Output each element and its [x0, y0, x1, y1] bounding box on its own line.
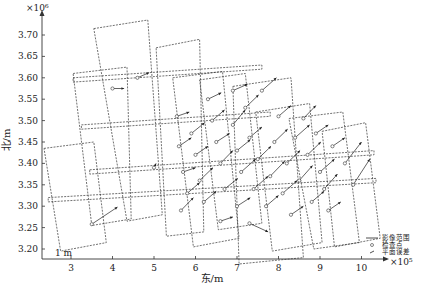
error-arrow-icon [325, 125, 328, 128]
x-tick-label: 8 [276, 263, 282, 273]
check-point [190, 132, 193, 135]
x-tick-label: 10 [356, 263, 368, 273]
y-tick-label: 3.45 [18, 137, 38, 147]
error-vector [353, 159, 370, 185]
error-vector [254, 176, 269, 189]
check-point [194, 153, 197, 156]
check-point [231, 123, 234, 126]
check-point [235, 149, 238, 152]
check-point [318, 170, 321, 173]
y-axis: ×10⁶ 3.203.253.303.353.403.453.503.553.6… [1, 3, 49, 259]
error-vector [345, 142, 362, 163]
x-tick-label: 9 [317, 263, 323, 273]
error-arrow-icon [338, 202, 341, 205]
image-footprints [44, 20, 380, 264]
check-point [306, 153, 309, 156]
image-footprint [322, 123, 380, 247]
check-point [273, 140, 276, 143]
x-axis-title: 东/m [201, 272, 224, 284]
check-point [211, 119, 214, 122]
check-point [256, 158, 259, 161]
error-arrow-icon [121, 87, 124, 90]
check-point [277, 115, 280, 118]
legend: 影像范围 检查点 平面误差 [366, 233, 410, 256]
check-point [285, 162, 288, 165]
error-vector [287, 151, 300, 164]
error-vector [295, 125, 310, 138]
check-point [281, 192, 284, 195]
check-point [186, 192, 189, 195]
y-tick-label: 3.70 [18, 30, 38, 40]
error-vector [274, 129, 287, 142]
y-tick-label: 3.50 [18, 116, 38, 126]
check-point [327, 209, 330, 212]
error-vector [258, 146, 271, 159]
check-point [240, 170, 243, 173]
error-vector [262, 78, 277, 91]
check-point [235, 205, 238, 208]
y-axis-title: 北/m [1, 128, 12, 151]
y-tick-label: 3.40 [18, 158, 38, 168]
x-tick-label: 5 [151, 263, 157, 273]
scale-label: 1 m [55, 248, 73, 258]
x-tick-label: 6 [193, 263, 199, 273]
check-point [175, 115, 178, 118]
check-point [198, 179, 201, 182]
check-point [177, 145, 180, 148]
y-ticks: 3.203.253.303.353.403.453.503.553.603.65… [18, 30, 45, 254]
image-footprint [73, 67, 131, 225]
error-vector [270, 161, 285, 176]
image-footprint [94, 20, 163, 221]
check-point [111, 87, 114, 90]
check-point [314, 132, 317, 135]
image-footprint [44, 142, 106, 251]
check-point [248, 222, 251, 225]
check-point [219, 162, 222, 165]
y-tick-label: 3.30 [18, 201, 38, 211]
check-point [248, 136, 251, 139]
x-tick-label: 3 [68, 263, 74, 273]
error-vector [200, 168, 213, 181]
check-point [331, 145, 334, 148]
check-point [352, 183, 355, 186]
image-footprint [173, 71, 239, 247]
check-point [343, 162, 346, 165]
x-tick-label: 4 [110, 263, 116, 273]
x-axis: ×10⁵ 345678910 东/m [42, 256, 413, 284]
error-vector [299, 166, 312, 181]
image-footprint [233, 78, 304, 264]
legend-circle-icon [371, 244, 374, 247]
check-point [152, 166, 155, 169]
check-point [298, 179, 301, 182]
check-point [202, 200, 205, 203]
error-arrow-icon [300, 206, 303, 209]
check-point [223, 187, 226, 190]
error-vector [241, 159, 256, 172]
check-point [244, 106, 247, 109]
y-tick-label: 3.20 [18, 244, 38, 254]
check-point [302, 117, 305, 120]
x-multiplier: ×10⁵ [390, 257, 413, 267]
error-arrow-icon [186, 112, 189, 114]
y-tick-label: 3.60 [18, 73, 38, 83]
error-vector [249, 223, 268, 232]
error-vector [233, 110, 245, 125]
check-point [136, 76, 139, 79]
error-arrow-icon [230, 217, 233, 219]
error-arrow-icon [193, 167, 196, 169]
y-tick-label: 3.55 [18, 94, 38, 104]
y-tick-label: 3.25 [18, 223, 38, 233]
check-point [323, 187, 326, 190]
check-point [310, 200, 313, 203]
error-vector [245, 95, 258, 108]
legend-error-label: 平面误差 [382, 247, 410, 256]
check-point [294, 136, 297, 139]
check-point [90, 223, 93, 226]
check-point [231, 89, 234, 92]
planimetric-error-vectors [92, 73, 370, 232]
check-point-error-chart: ×10⁶ 3.203.253.303.353.403.453.503.553.6… [0, 0, 421, 290]
check-point [289, 213, 292, 216]
y-tick-label: 3.65 [18, 51, 38, 61]
check-point [269, 175, 272, 178]
x-tick-label: 7 [234, 263, 240, 273]
